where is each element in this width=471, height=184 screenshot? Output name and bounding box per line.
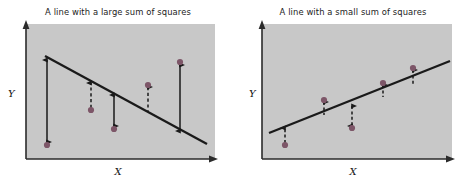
y-axis-label-left: Y <box>8 88 15 99</box>
y-axis-label-right: Y <box>249 88 256 99</box>
data-point <box>380 80 386 86</box>
data-point <box>177 59 183 65</box>
data-point <box>321 97 327 103</box>
panel-large-sum-of-squares: A line with a large sum of squares <box>0 0 236 184</box>
data-point <box>349 125 355 131</box>
plot-background-right <box>262 24 452 159</box>
data-point <box>44 142 50 148</box>
x-axis-label-left: X <box>0 166 236 177</box>
data-point <box>111 126 117 132</box>
plot-left <box>0 0 236 184</box>
panel-small-sum-of-squares: A line with a small sum of squares <box>235 0 471 184</box>
plot-background-left <box>26 24 215 159</box>
data-point <box>410 65 416 71</box>
data-point <box>88 107 94 113</box>
plot-right <box>235 0 471 184</box>
data-point <box>282 142 288 148</box>
x-axis-label-right: X <box>235 166 471 177</box>
data-point <box>145 82 151 88</box>
regression-sum-of-squares-figure: A line with a large sum of squares <box>0 0 471 184</box>
